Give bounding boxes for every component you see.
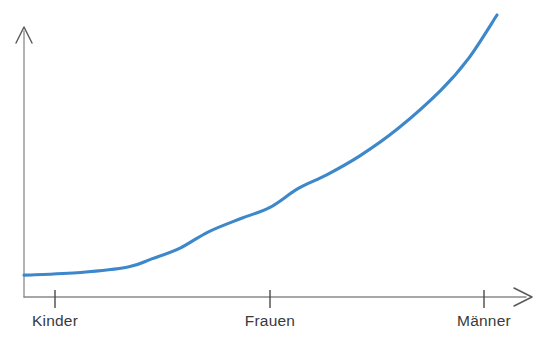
x-tick-label-maenner: Männer bbox=[457, 312, 511, 330]
x-tick-label-frauen: Frauen bbox=[245, 312, 295, 330]
chart-graphic bbox=[0, 0, 544, 347]
chart-canvas: Kinder Frauen Männer bbox=[0, 0, 544, 347]
data-curve-line bbox=[24, 15, 497, 275]
x-tick-label-kinder: Kinder bbox=[32, 312, 78, 330]
